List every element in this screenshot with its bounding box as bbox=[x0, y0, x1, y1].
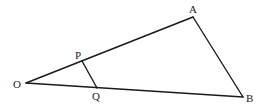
point-label-a: A bbox=[189, 3, 197, 15]
point-label-q: Q bbox=[92, 90, 100, 102]
segment-ab bbox=[193, 17, 243, 97]
point-label-p: P bbox=[75, 49, 81, 61]
segment-ob bbox=[26, 83, 243, 97]
point-label-b: B bbox=[246, 92, 253, 104]
segment-pq bbox=[82, 61, 97, 88]
segment-oa bbox=[26, 17, 193, 83]
triangle-diagram: OABPQ bbox=[0, 0, 262, 109]
point-label-o: O bbox=[13, 78, 21, 90]
point-labels: OABPQ bbox=[13, 3, 253, 104]
segments bbox=[26, 17, 243, 97]
